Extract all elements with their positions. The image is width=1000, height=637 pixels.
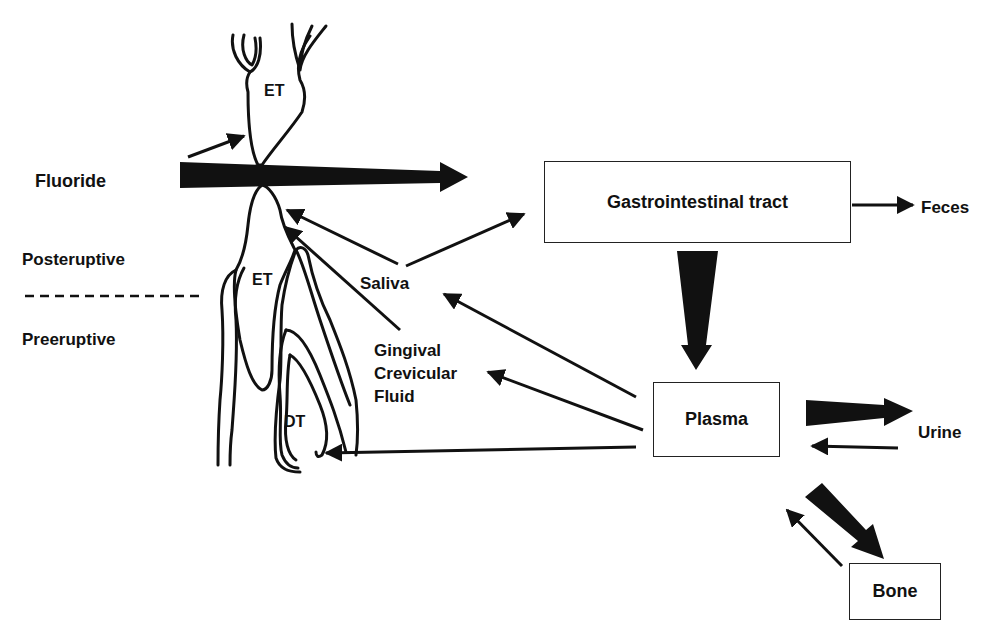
posteruptive-label: Posteruptive (22, 251, 125, 268)
bone-box: Bone (849, 563, 941, 620)
gi-tract-box: Gastrointestinal tract (544, 161, 851, 243)
plasma-to-dt-arrow (326, 447, 636, 453)
plasma-label: Plasma (685, 409, 748, 430)
plasma-to-saliva-arrow (444, 294, 636, 397)
dt-label: DT (284, 414, 305, 430)
saliva-to-et-arrow (287, 210, 398, 264)
fluoride-ingestion-arrow (180, 162, 468, 192)
urine-to-plasma-arrow (812, 446, 898, 448)
saliva-to-gi-arrow (406, 214, 524, 266)
urine-label: Urine (918, 424, 961, 441)
feces-label: Feces (921, 199, 969, 216)
fluoride-label: Fluoride (35, 172, 106, 190)
fluoride-flow-diagram (0, 0, 1000, 637)
bone-label: Bone (873, 581, 918, 602)
gingival-crevicular-fluid-label: Gingival Crevicular Fluid (374, 339, 457, 408)
saliva-label: Saliva (360, 275, 409, 292)
plasma-to-urine-arrow (806, 398, 913, 426)
topical-fluoride-arrow (188, 136, 244, 157)
gcf-line-1: Gingival (374, 339, 457, 362)
plasma-to-gcf-arrow (488, 372, 643, 430)
gi-to-plasma-arrow (677, 251, 718, 370)
lower-et-label: ET (252, 272, 272, 288)
gi-tract-label: Gastrointestinal tract (607, 192, 788, 213)
gcf-line-2: Crevicular (374, 362, 457, 385)
plasma-to-bone-arrow (805, 483, 884, 559)
upper-et-label: ET (264, 83, 284, 99)
gcf-line-3: Fluid (374, 385, 457, 408)
preeruptive-label: Preeruptive (22, 331, 116, 348)
plasma-box: Plasma (653, 382, 780, 457)
